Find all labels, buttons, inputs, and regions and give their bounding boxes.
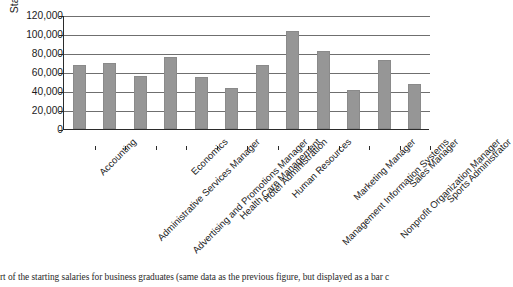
figure-caption: rt of the starting salaries for business…: [0, 272, 437, 282]
bar-slot: [247, 15, 278, 129]
bar-slot: [369, 15, 400, 129]
bar-slot: [186, 15, 217, 129]
bar-slot: [308, 15, 339, 129]
bar[interactable]: [225, 88, 238, 129]
bar-slot: [156, 15, 187, 129]
bar-slot: [217, 15, 248, 129]
bar-slot: [64, 15, 95, 129]
y-tick-label: 80,000: [5, 48, 63, 59]
bar[interactable]: [286, 31, 299, 129]
y-tick-label: 60,000: [5, 67, 63, 78]
bar[interactable]: [378, 60, 391, 129]
x-tick-label: Marketing Manager: [351, 136, 417, 202]
y-tick-label: 120,000: [5, 10, 63, 21]
x-axis-labels: AccountingAdministrative Services Manage…: [63, 134, 437, 256]
bar-slot: [339, 15, 370, 129]
bar[interactable]: [73, 65, 86, 129]
bar[interactable]: [195, 77, 208, 129]
bar[interactable]: [408, 84, 421, 129]
plot-area: [63, 16, 429, 130]
y-tick-label: 100,000: [5, 29, 63, 40]
y-tick-mark: [59, 130, 63, 131]
y-tick-label: 20,000: [5, 105, 63, 116]
bar[interactable]: [317, 51, 330, 129]
bar[interactable]: [164, 57, 177, 129]
x-tick-label: Accounting: [97, 136, 138, 177]
bar[interactable]: [103, 63, 116, 130]
bar-slot: [400, 15, 431, 129]
y-tick-label: 40,000: [5, 86, 63, 97]
bar[interactable]: [134, 76, 147, 129]
bar[interactable]: [347, 90, 360, 129]
bar-slot: [95, 15, 126, 129]
bar[interactable]: [256, 65, 269, 129]
y-axis-ticks: 120,000100,00080,00060,00040,00020,0000: [0, 0, 63, 146]
bar-series: [64, 15, 430, 129]
bar-slot: [278, 15, 309, 129]
y-tick-label: 0: [5, 124, 63, 135]
bar-slot: [125, 15, 156, 129]
